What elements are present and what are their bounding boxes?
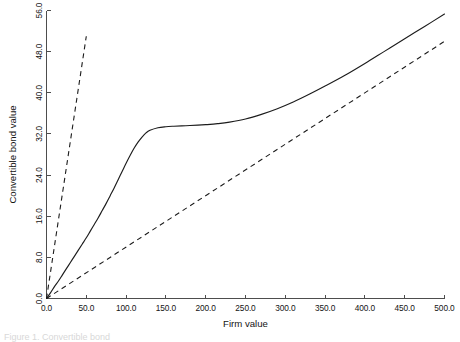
x-tick-label: 250.0 [235, 303, 256, 313]
x-tick-label: 450.0 [395, 303, 416, 313]
x-tick-label: 150.0 [156, 303, 177, 313]
chart-figure: 0.050.0100.0150.0200.0250.0300.0350.0400… [0, 0, 460, 342]
chart-background [0, 0, 460, 342]
y-tick-label: 16.0 [34, 208, 44, 224]
y-tick-label: 56.0 [34, 2, 44, 18]
x-tick-label: 300.0 [275, 303, 296, 313]
x-tick-label: 350.0 [315, 303, 336, 313]
y-tick-label: 40.0 [34, 84, 44, 100]
y-tick-label: 32.0 [34, 126, 44, 142]
x-tick-label: 400.0 [355, 303, 376, 313]
y-axis-title: Convertible bond value [7, 105, 18, 203]
x-tick-label: 200.0 [196, 303, 217, 313]
y-tick-label: 8.0 [34, 251, 44, 263]
figure-caption: Figure 1. Convertible bond [4, 332, 110, 342]
y-tick-label: 0.0 [34, 292, 44, 304]
x-tick-label: 100.0 [116, 303, 137, 313]
y-tick-label: 24.0 [34, 167, 44, 183]
x-tick-label: 500.0 [434, 303, 455, 313]
x-axis-title: Firm value [223, 318, 268, 329]
x-tick-label: 50.0 [78, 303, 94, 313]
y-tick-label: 48.0 [34, 43, 44, 59]
convertible-bond-chart: 0.050.0100.0150.0200.0250.0300.0350.0400… [0, 0, 460, 342]
